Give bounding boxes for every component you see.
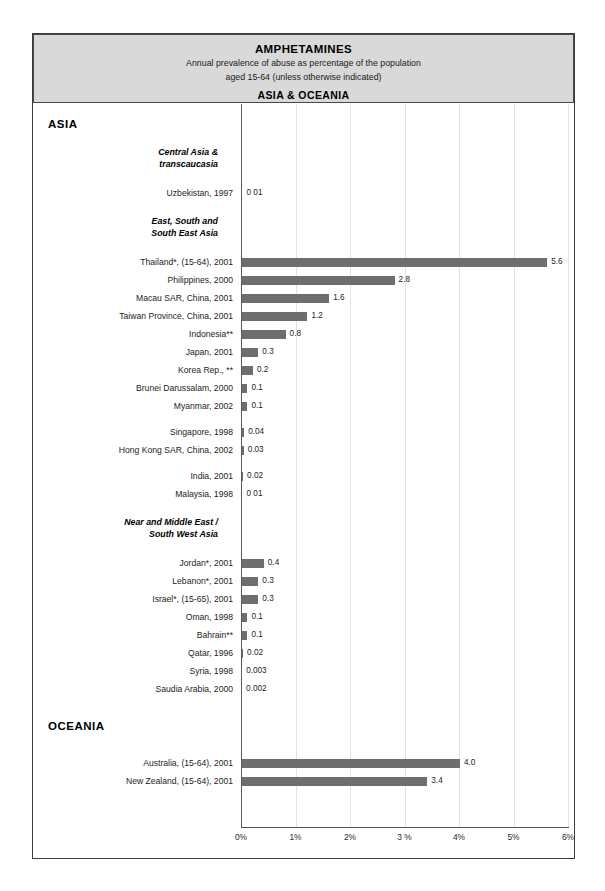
chart-row: Syria, 19980.003 xyxy=(33,662,574,680)
chart-row: Brunei Darussalam, 20000.1 xyxy=(33,379,574,397)
row-label: India, 2001 xyxy=(33,467,233,485)
row-label: Hong Kong SAR, China, 2002 xyxy=(33,441,233,459)
bar xyxy=(242,428,244,437)
bar-value-label: 0.8 xyxy=(290,325,301,343)
chart-row: Taiwan Province, China, 20011.2 xyxy=(33,307,574,325)
chart-row: Oman, 19980.1 xyxy=(33,608,574,626)
bar-value-label: 0.1 xyxy=(251,608,262,626)
group-heading: Near and Middle East / South West Asia xyxy=(33,517,218,540)
row-label: Oman, 1998 xyxy=(33,608,233,626)
bar xyxy=(242,402,247,411)
x-tick-label-5: 5% xyxy=(494,832,534,842)
row-label: Australia, (15-64), 2001 xyxy=(33,754,233,772)
row-label: Qatar, 1996 xyxy=(33,644,233,662)
bar xyxy=(242,777,427,786)
row-label: Taiwan Province, China, 2001 xyxy=(33,307,233,325)
bar-value-label: 0 01 xyxy=(247,485,263,503)
chart-row: Philippines, 20002.8 xyxy=(33,271,574,289)
gridline-6 xyxy=(568,104,569,828)
chart-row: New Zealand, (15-64), 20013.4 xyxy=(33,772,574,790)
chart-row: Australia, (15-64), 20014.0 xyxy=(33,754,574,772)
gridline-1 xyxy=(296,104,297,828)
row-label: Philippines, 2000 xyxy=(33,271,233,289)
region-heading-asia: ASIA xyxy=(48,118,77,130)
bar-value-label: 0.002 xyxy=(246,680,267,698)
row-label: Israel*, (15-65), 2001 xyxy=(33,590,233,608)
row-label: Uzbekistan, 1997 xyxy=(33,184,233,202)
group-heading: Central Asia & transcaucasia xyxy=(33,147,218,170)
chart-region-title: ASIA & OCEANIA xyxy=(34,89,573,101)
gridline-2 xyxy=(350,104,351,828)
chart-row: Thailand*, (15-64), 20015.6 xyxy=(33,253,574,271)
row-label: Lebanon*, 2001 xyxy=(33,572,233,590)
bar-value-label: 3.4 xyxy=(431,772,442,790)
x-tick-label-0: 0% xyxy=(221,832,261,842)
bar-value-label: 4.0 xyxy=(464,754,475,772)
bar xyxy=(242,384,247,393)
chart-row: Lebanon*, 20010.3 xyxy=(33,572,574,590)
bar-value-label: 0.4 xyxy=(268,554,279,572)
x-axis-baseline xyxy=(241,827,569,828)
chart-row: Qatar, 19960.02 xyxy=(33,644,574,662)
x-tick-label-2: 2% xyxy=(330,832,370,842)
bar-value-label: 1.2 xyxy=(311,307,322,325)
bar xyxy=(242,258,547,267)
chart-page: AMPHETAMINES Annual prevalence of abuse … xyxy=(0,0,605,891)
x-tick-label-1: 1% xyxy=(276,832,316,842)
bar xyxy=(242,366,253,375)
group-heading: East, South and South East Asia xyxy=(33,216,218,239)
bar-value-label: 2.8 xyxy=(399,271,410,289)
chart-row: Myanmar, 20020.1 xyxy=(33,397,574,415)
gridline-5 xyxy=(514,104,515,828)
row-label: Jordan*, 2001 xyxy=(33,554,233,572)
row-label: Indonesia** xyxy=(33,325,233,343)
bar xyxy=(242,595,258,604)
row-label: Thailand*, (15-64), 2001 xyxy=(33,253,233,271)
bar xyxy=(242,649,243,658)
bar-value-label: 0.2 xyxy=(257,361,268,379)
row-label: Singapore, 1998 xyxy=(33,423,233,441)
gridline-3 xyxy=(405,104,406,828)
x-tick-label-4: 4% xyxy=(439,832,479,842)
chart-row: Korea Rep., **0.2 xyxy=(33,361,574,379)
chart-row: Japan, 20010.3 xyxy=(33,343,574,361)
bar xyxy=(242,312,307,321)
region-heading-oceania: OCEANIA xyxy=(48,720,105,732)
x-tick-label-3: 3 % xyxy=(385,832,425,842)
bar-value-label: 1.6 xyxy=(333,289,344,307)
bar-value-label: 0.3 xyxy=(262,590,273,608)
chart-row: Uzbekistan, 19970 01 xyxy=(33,184,574,202)
row-label: Myanmar, 2002 xyxy=(33,397,233,415)
chart-row: Bahrain**0.1 xyxy=(33,626,574,644)
chart-row: Hong Kong SAR, China, 20020.03 xyxy=(33,441,574,459)
chart-subtitle-line1: Annual prevalence of abuse as percentage… xyxy=(34,58,573,70)
chart-row: India, 20010.02 xyxy=(33,467,574,485)
chart-subtitle-line2: aged 15-64 (unless otherwise indicated) xyxy=(34,72,573,84)
chart-row: Singapore, 19980.04 xyxy=(33,423,574,441)
chart-row: Israel*, (15-65), 20010.3 xyxy=(33,590,574,608)
bar-value-label: 0.02 xyxy=(247,467,263,485)
row-label: Macau SAR, China, 2001 xyxy=(33,289,233,307)
row-label: New Zealand, (15-64), 2001 xyxy=(33,772,233,790)
row-label: Bahrain** xyxy=(33,626,233,644)
bar-value-label: 0.003 xyxy=(246,662,267,680)
row-label: Japan, 2001 xyxy=(33,343,233,361)
bar xyxy=(242,294,329,303)
row-label: Brunei Darussalam, 2000 xyxy=(33,379,233,397)
row-label: Malaysia, 1998 xyxy=(33,485,233,503)
chart-row: Malaysia, 19980 01 xyxy=(33,485,574,503)
chart-title-block: AMPHETAMINES Annual prevalence of abuse … xyxy=(33,34,574,103)
bar-value-label: 0.1 xyxy=(251,397,262,415)
chart-row: Indonesia**0.8 xyxy=(33,325,574,343)
x-tick-label-6: 6% xyxy=(548,832,588,842)
bar-value-label: 0.04 xyxy=(248,423,264,441)
bar xyxy=(242,276,395,285)
bar xyxy=(242,472,243,481)
bar-value-label: 0.1 xyxy=(251,626,262,644)
bar-value-label: 0.3 xyxy=(262,343,273,361)
bar xyxy=(242,759,460,768)
bar xyxy=(242,446,244,455)
bar xyxy=(242,613,247,622)
bar-value-label: 0.02 xyxy=(247,644,263,662)
bar xyxy=(242,330,286,339)
